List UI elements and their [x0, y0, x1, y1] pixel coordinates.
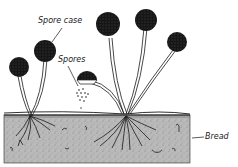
bread-mold-diagram	[0, 0, 238, 167]
label-bread: Bread	[205, 133, 229, 141]
released-spores	[76, 88, 89, 109]
bread-slab	[4, 115, 190, 163]
label-spores: Spores	[58, 56, 85, 64]
label-spore-case: Spore case	[38, 17, 82, 25]
spore-cases	[9, 9, 187, 84]
stalks-right	[90, 28, 179, 114]
